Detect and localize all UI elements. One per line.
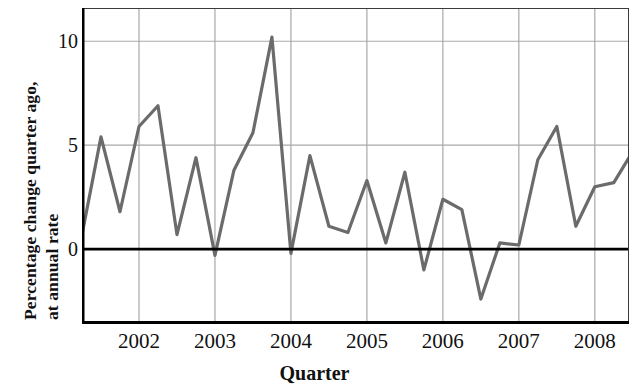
x-tick-label: 2003 xyxy=(194,331,236,352)
plot-area xyxy=(82,8,629,324)
chart-plot-svg xyxy=(82,8,629,324)
plot-frame-border xyxy=(82,8,629,324)
x-tick-label: 2004 xyxy=(270,331,312,352)
data-series-line xyxy=(82,37,629,299)
y-tick-label: 10 xyxy=(46,31,78,51)
x-tick-label: 2002 xyxy=(118,331,160,352)
y-tick-label: 5 xyxy=(46,135,78,155)
horizontal-gridlines xyxy=(82,41,629,145)
y-axis-tick-labels: 1050 xyxy=(36,0,78,340)
x-tick-label: 2007 xyxy=(498,331,540,352)
y-tick-label: 0 xyxy=(46,239,78,259)
chart-container: Percentage change quarter ago, at annual… xyxy=(0,0,629,391)
vertical-gridlines xyxy=(139,8,595,324)
x-tick-label: 2008 xyxy=(574,331,616,352)
x-axis-tick-labels: 2002200320042005200620072008 xyxy=(0,331,629,361)
x-tick-label: 2005 xyxy=(346,331,388,352)
x-tick-label: 2006 xyxy=(422,331,464,352)
x-axis-title: Quarter xyxy=(0,362,629,385)
